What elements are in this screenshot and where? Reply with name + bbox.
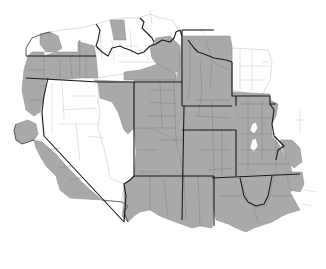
western-us-county-map bbox=[0, 0, 326, 269]
map-container bbox=[0, 0, 326, 269]
region-nevada-east bbox=[94, 80, 134, 134]
